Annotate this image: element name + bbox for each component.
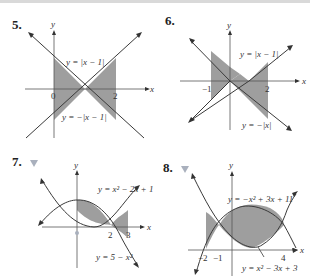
svg-text:y: y — [228, 160, 233, 170]
problem-8: 8. x y −2 −1 4 y = −x² + 3x + 11 y = x² … — [0, 0, 310, 276]
triangle-marker-icon — [181, 166, 189, 173]
svg-text:4: 4 — [281, 253, 286, 263]
svg-text:−2: −2 — [198, 253, 208, 263]
svg-text:y = −x² + 3x + 11: y = −x² + 3x + 11 — [227, 194, 293, 204]
graph-8: x y −2 −1 4 y = −x² + 3x + 11 y = x² − 3… — [0, 0, 310, 276]
svg-text:y = x² − 3x + 3: y = x² − 3x + 3 — [241, 263, 298, 273]
svg-text:x: x — [299, 245, 304, 255]
svg-text:−1: −1 — [213, 253, 223, 263]
